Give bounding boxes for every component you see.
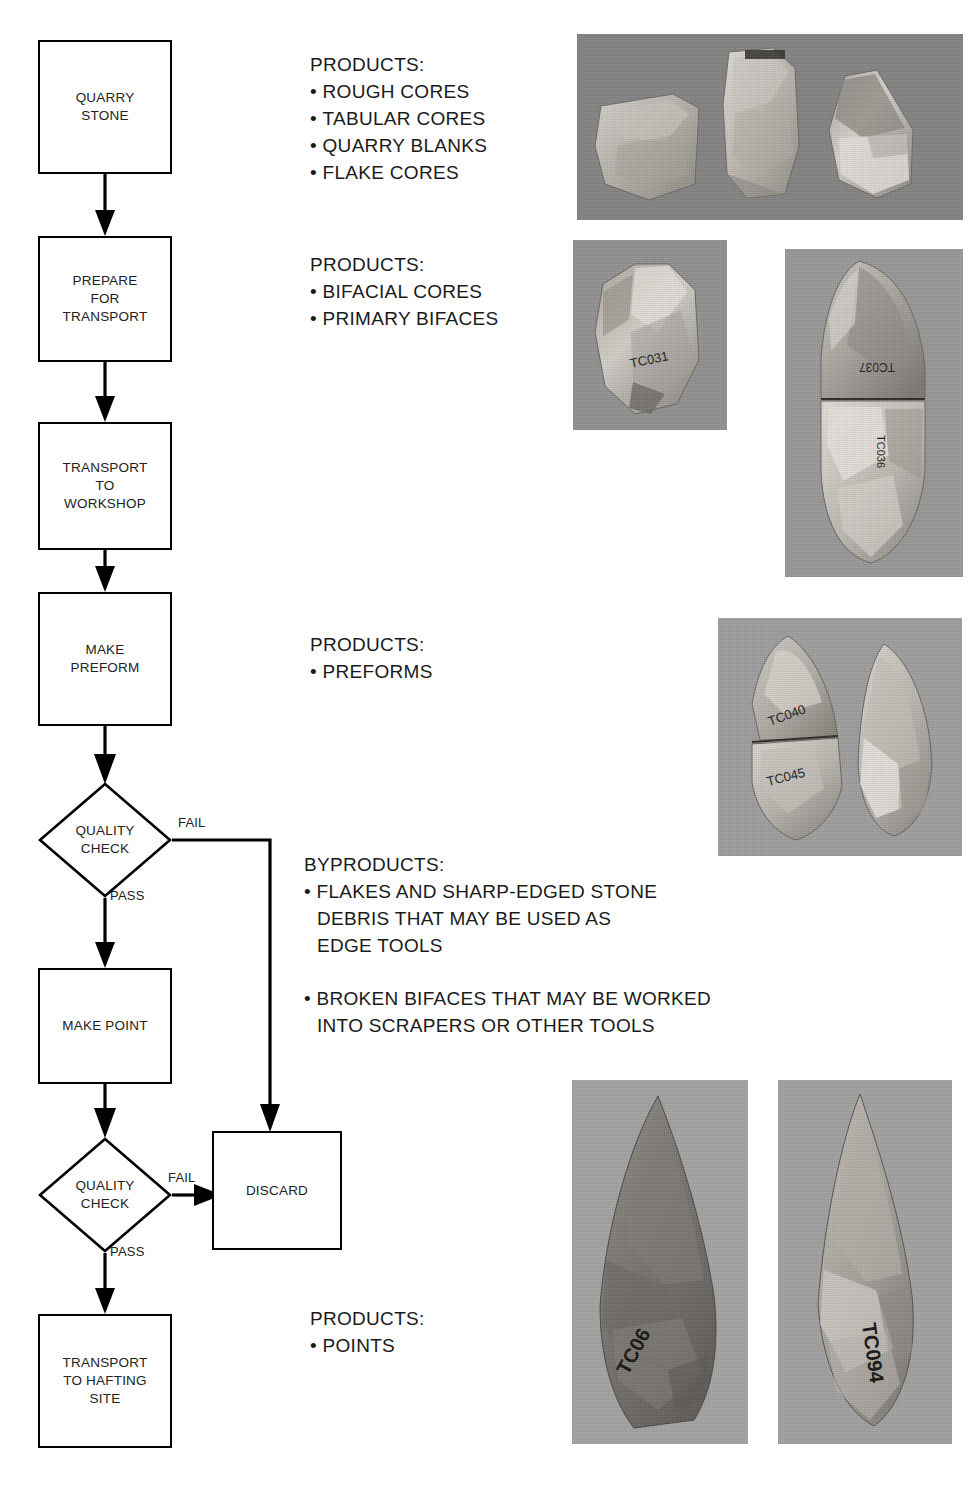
annotation-item: PRIMARY BIFACES: [310, 306, 570, 333]
photo-point-right: TC094: [778, 1080, 952, 1444]
node-transport-to-hafting-site-label: TRANSPORT TO HAFTING SITE: [63, 1354, 148, 1407]
edge-label-fail-1: FAIL: [178, 815, 206, 830]
annotation-item: BROKEN BIFACES THAT MAY BE WORKED INTO S…: [304, 986, 774, 1040]
photo-primary-biface: TC037 TC036: [785, 249, 963, 577]
annotation-products-points: PRODUCTS: POINTS: [310, 1306, 560, 1360]
node-make-point[interactable]: MAKE POINT: [38, 968, 172, 1084]
edge-label-pass-2: PASS: [110, 1244, 145, 1259]
flowchart-page: QUARRY STONE PREPARE FOR TRANSPORT TRANS…: [0, 0, 974, 1492]
diamond-shape-1: [38, 782, 172, 898]
node-prepare-for-transport[interactable]: PREPARE FOR TRANSPORT: [38, 236, 172, 362]
edge-label-pass-1: PASS: [110, 888, 145, 903]
annotation-products-prepare: PRODUCTS: BIFACIAL CORES PRIMARY BIFACES: [310, 252, 570, 333]
edge-label-fail-2: FAIL: [168, 1170, 196, 1185]
annotation-item: PREFORMS: [310, 659, 560, 686]
node-quality-check-1[interactable]: QUALITY CHECK: [38, 782, 172, 898]
svg-text:TC036: TC036: [875, 435, 887, 468]
node-make-preform-label: MAKE PREFORM: [71, 641, 140, 677]
node-discard-label: DISCARD: [246, 1182, 308, 1200]
photo-point-left: TC06: [572, 1080, 748, 1444]
arrowhead-transport-workshop: [95, 396, 115, 422]
annotation-item: FLAKES AND SHARP-EDGED STONE DEBRIS THAT…: [304, 879, 774, 960]
photo-rough-cores: [577, 34, 963, 220]
node-prepare-for-transport-label: PREPARE FOR TRANSPORT: [63, 272, 148, 325]
node-quarry-stone[interactable]: QUARRY STONE: [38, 40, 172, 174]
arrowhead-make-preform: [95, 566, 115, 592]
photo-preforms-art: TC040 TC045: [718, 618, 962, 856]
node-quality-check-2[interactable]: QUALITY CHECK: [38, 1137, 172, 1253]
node-transport-to-workshop[interactable]: TRANSPORT TO WORKSHOP: [38, 422, 172, 550]
photo-rough-cores-art: [577, 34, 963, 220]
annotation-heading: PRODUCTS:: [310, 632, 560, 659]
annotation-item: FLAKE CORES: [310, 160, 560, 187]
svg-text:TC037: TC037: [859, 360, 895, 374]
annotation-heading: PRODUCTS:: [310, 1306, 560, 1333]
arrowhead-qc1: [94, 754, 116, 784]
photo-point-left-art: TC06: [572, 1080, 748, 1444]
node-make-point-label: MAKE POINT: [62, 1017, 147, 1035]
node-transport-to-hafting-site[interactable]: TRANSPORT TO HAFTING SITE: [38, 1314, 172, 1448]
annotation-item: ROUGH CORES: [310, 79, 560, 106]
node-discard[interactable]: DISCARD: [212, 1131, 342, 1250]
photo-primary-biface-art: TC037 TC036: [785, 249, 963, 577]
arrowhead-qc2: [94, 1108, 116, 1138]
annotation-products-quarry: PRODUCTS: ROUGH CORES TABULAR CORES QUAR…: [310, 52, 560, 187]
photo-point-right-art: TC094: [778, 1080, 952, 1444]
photo-bifacial-core-art: TC031: [573, 240, 727, 430]
annotation-item: TABULAR CORES: [310, 106, 560, 133]
photo-preforms: TC040 TC045: [718, 618, 962, 856]
photo-bifacial-core: TC031: [573, 240, 727, 430]
annotation-heading: PRODUCTS:: [310, 252, 570, 279]
arrowhead-hafting: [95, 1288, 115, 1314]
node-quarry-stone-label: QUARRY STONE: [76, 89, 135, 125]
diamond-shape-2: [38, 1137, 172, 1253]
annotation-item: BIFACIAL CORES: [310, 279, 570, 306]
arrowhead-discard-top: [260, 1104, 280, 1132]
annotation-item: POINTS: [310, 1333, 560, 1360]
annotation-item: QUARRY BLANKS: [310, 133, 560, 160]
arrowhead-make-point: [95, 942, 115, 968]
annotation-heading: PRODUCTS:: [310, 52, 560, 79]
arrowhead-prepare: [95, 210, 115, 236]
annotation-byproducts: BYPRODUCTS: FLAKES AND SHARP-EDGED STONE…: [304, 852, 774, 1040]
annotation-products-preform: PRODUCTS: PREFORMS: [310, 632, 560, 686]
node-transport-to-workshop-label: TRANSPORT TO WORKSHOP: [63, 459, 148, 512]
connector-qc1-fail-to-discard: [172, 840, 270, 1108]
annotation-heading: BYPRODUCTS:: [304, 852, 774, 879]
annotation-spacer: [304, 960, 774, 986]
node-make-preform[interactable]: MAKE PREFORM: [38, 592, 172, 726]
